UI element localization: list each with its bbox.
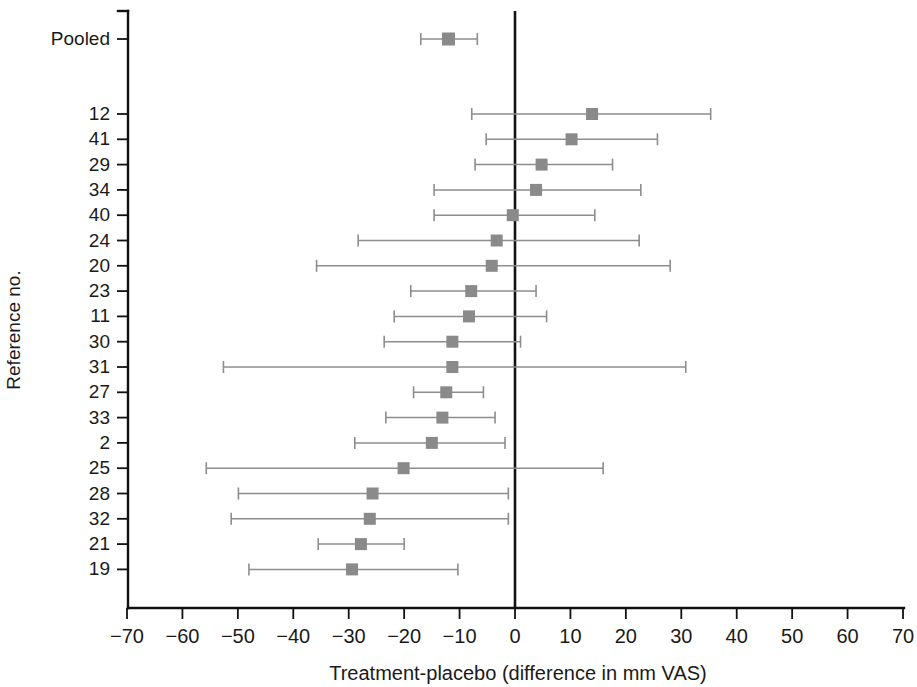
y-axis-tick-label: 29 (89, 154, 110, 175)
x-axis-tick-label: 40 (726, 625, 748, 647)
study-estimate-marker (463, 310, 475, 322)
study-estimate-marker (367, 488, 379, 500)
x-axis-tick-label: 50 (781, 625, 803, 647)
x-axis-tick-label: −20 (387, 625, 421, 647)
study-estimate-marker (364, 513, 376, 525)
x-axis-tick-label: 10 (559, 625, 581, 647)
pooled-estimate-marker (442, 33, 455, 46)
study-estimate-marker (446, 361, 458, 373)
y-axis-tick-label: 33 (89, 407, 110, 428)
x-axis-tick-label: −30 (332, 625, 366, 647)
y-axis-tick-label: 25 (89, 457, 110, 478)
study-estimate-marker (530, 184, 542, 196)
x-axis-tick-label: 70 (892, 625, 914, 647)
y-axis-tick-label: 11 (90, 305, 110, 326)
y-axis-tick-label: 24 (89, 230, 111, 251)
y-axis-tick-label: 27 (89, 381, 110, 402)
study-estimate-marker (566, 133, 578, 145)
study-estimate-marker (346, 563, 358, 575)
y-axis-tick-label: 40 (89, 204, 110, 225)
x-axis-title: Treatment-placebo (difference in mm VAS) (329, 662, 707, 684)
study-estimate-marker (491, 235, 503, 247)
x-axis-tick-label: −70 (110, 625, 144, 647)
x-axis-tick-label: −50 (221, 625, 255, 647)
study-estimate-marker (355, 538, 367, 550)
y-axis-tick-label: 23 (89, 280, 110, 301)
y-axis-tick-label: 12 (89, 103, 110, 124)
forest-plot-figure: −70−60−50−40−30−20−10010203040506070Trea… (0, 0, 917, 687)
forest-plot-canvas: −70−60−50−40−30−20−10010203040506070Trea… (0, 0, 917, 687)
study-estimate-marker (398, 462, 410, 474)
x-axis-tick-label: −40 (276, 625, 310, 647)
y-axis-tick-label: 41 (89, 128, 110, 149)
y-axis-tick-label: 31 (89, 356, 110, 377)
x-axis-tick-label: −10 (443, 625, 477, 647)
study-estimate-marker (440, 386, 452, 398)
study-estimate-marker (586, 108, 598, 120)
study-estimate-marker (436, 412, 448, 424)
x-axis-tick-label: 60 (836, 625, 858, 647)
y-axis-tick-label: Pooled (51, 28, 110, 49)
study-estimate-marker (536, 159, 548, 171)
y-axis-tick-label: 34 (89, 179, 111, 200)
study-estimate-marker (465, 285, 477, 297)
y-axis-tick-label: 21 (89, 533, 110, 554)
y-axis-title: Reference no. (3, 270, 24, 389)
x-axis-tick-label: −60 (165, 625, 199, 647)
x-axis-tick-label: 0 (509, 625, 520, 647)
study-estimate-marker (486, 260, 498, 272)
y-axis-tick-label: 19 (89, 558, 110, 579)
study-estimate-marker (507, 209, 519, 221)
x-axis-tick-label: 30 (670, 625, 692, 647)
y-axis-tick-label: 28 (89, 483, 110, 504)
y-axis-tick-label: 30 (89, 331, 110, 352)
study-estimate-marker (426, 437, 438, 449)
study-estimate-marker (446, 336, 458, 348)
x-axis-tick-label: 20 (615, 625, 637, 647)
y-axis-tick-label: 20 (89, 255, 110, 276)
y-axis-tick-label: 2 (99, 432, 110, 453)
y-axis-tick-label: 32 (89, 508, 110, 529)
